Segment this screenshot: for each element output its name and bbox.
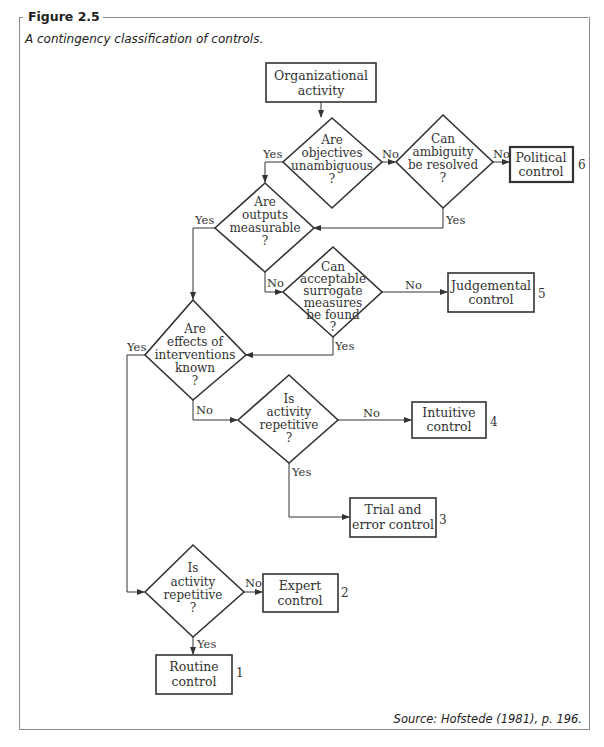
political-line-1: Political <box>516 150 567 165</box>
effects-line-1: Are <box>183 322 206 336</box>
objectives-line-2: objectives <box>301 146 362 160</box>
political-number: 6 <box>578 158 586 172</box>
surrogate-line-6: ? <box>330 320 336 334</box>
routine-number: 1 <box>236 666 244 680</box>
ambiguity-line-1: Can <box>431 132 455 146</box>
label-objectives-no: No <box>382 147 399 161</box>
trial-line-2: error control <box>352 517 434 532</box>
start-line-2: activity <box>298 83 346 98</box>
judgemental-line-1: Judgemental <box>449 278 531 293</box>
repetitive-a-line-1: Is <box>284 392 295 406</box>
intuitive-line-2: control <box>426 419 471 434</box>
repetitive-a-line-4: ? <box>286 431 292 445</box>
outputs-line-3: measurable <box>229 221 300 235</box>
political-line-2: control <box>518 164 563 179</box>
objectives-line-3: unambiguous <box>291 159 373 173</box>
edge-ambiguity-yes <box>314 208 443 228</box>
outputs-line-2: outputs <box>242 208 288 222</box>
edge-effects-yes <box>127 355 145 592</box>
judgemental-number: 5 <box>538 287 546 301</box>
effects-line-4: known <box>175 361 215 375</box>
flowchart: Organizational activity Political contro… <box>0 0 604 747</box>
outputs-line-1: Are <box>253 195 276 209</box>
effects-line-5: ? <box>192 374 198 388</box>
routine-line-1: Routine <box>169 659 218 674</box>
label-repetitive-a-no: No <box>363 406 380 420</box>
objectives-line-1: Are <box>320 133 343 147</box>
label-repetitive-b-yes: Yes <box>196 637 216 651</box>
repetitive-b-line-4: ? <box>190 601 196 615</box>
label-surrogate-yes: Yes <box>334 339 354 353</box>
label-outputs-yes: Yes <box>194 213 214 227</box>
label-ambiguity-no: No <box>493 147 510 161</box>
effects-line-2: effects of <box>167 335 224 349</box>
label-surrogate-no: No <box>405 278 422 292</box>
label-outputs-no: No <box>267 276 284 290</box>
edge-surrogate-yes <box>246 337 333 355</box>
ambiguity-line-3: be resolved <box>408 158 479 172</box>
judgemental-line-2: control <box>468 292 513 307</box>
routine-line-2: control <box>171 674 216 689</box>
ambiguity-line-4: ? <box>440 171 446 185</box>
start-line-1: Organizational <box>274 68 368 83</box>
repetitive-a-line-3: repetitive <box>260 418 319 432</box>
intuitive-number: 4 <box>490 415 498 429</box>
repetitive-b-line-1: Is <box>188 561 199 575</box>
repetitive-a-line-2: activity <box>267 405 312 419</box>
repetitive-b-line-3: repetitive <box>164 588 223 602</box>
ambiguity-line-2: ambiguity <box>413 145 474 159</box>
label-ambiguity-yes: Yes <box>445 213 465 227</box>
outputs-line-4: ? <box>262 234 268 248</box>
trial-line-1: Trial and <box>364 502 421 517</box>
intuitive-line-1: Intuitive <box>422 405 476 420</box>
objectives-line-4: ? <box>329 172 335 186</box>
expert-line-2: control <box>277 593 322 608</box>
label-effects-yes: Yes <box>126 340 146 354</box>
trial-number: 3 <box>439 513 447 527</box>
label-repetitive-b-no: No <box>245 576 262 590</box>
repetitive-b-line-2: activity <box>171 575 216 589</box>
label-repetitive-a-yes: Yes <box>291 465 311 479</box>
label-objectives-yes: Yes <box>262 147 282 161</box>
effects-line-3: interventions <box>155 348 236 362</box>
edge-objectives-yes <box>265 162 283 182</box>
edge-outputs-yes <box>193 228 215 299</box>
expert-line-1: Expert <box>279 578 322 593</box>
expert-number: 2 <box>341 586 349 600</box>
label-effects-no: No <box>196 403 213 417</box>
